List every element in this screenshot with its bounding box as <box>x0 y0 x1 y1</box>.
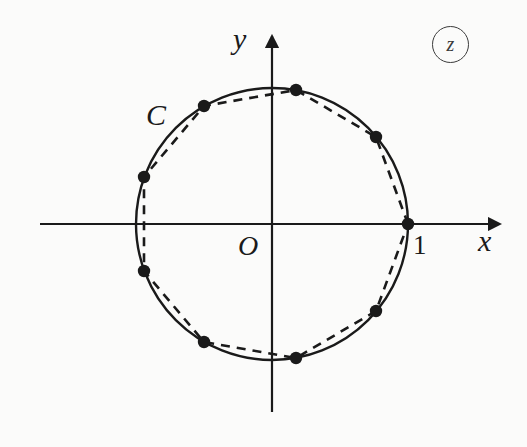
z-plane-tag: z <box>432 26 469 63</box>
polygon-vertex-4 <box>138 171 150 183</box>
polygon-vertex-2 <box>290 84 302 96</box>
x-tick-label-one: 1 <box>413 232 427 259</box>
y-axis-label: y <box>233 24 246 54</box>
figure-canvas <box>0 0 527 447</box>
polygon-vertex-5 <box>138 265 150 277</box>
origin-label: O <box>238 232 258 260</box>
z-plane-tag-label: z <box>447 33 455 56</box>
curve-label-c: C <box>146 100 166 130</box>
axes-group <box>40 36 500 412</box>
x-axis-label: x <box>478 226 491 256</box>
polygon-vertex-6 <box>198 336 210 348</box>
polygon-vertex-3 <box>198 100 210 112</box>
polygon-vertex-0 <box>402 218 414 230</box>
polygon-vertex-7 <box>290 352 302 364</box>
polygon-vertex-8 <box>370 305 382 317</box>
complex-plane-figure: y x O C 1 z <box>0 0 527 447</box>
polygon-vertex-1 <box>370 131 382 143</box>
